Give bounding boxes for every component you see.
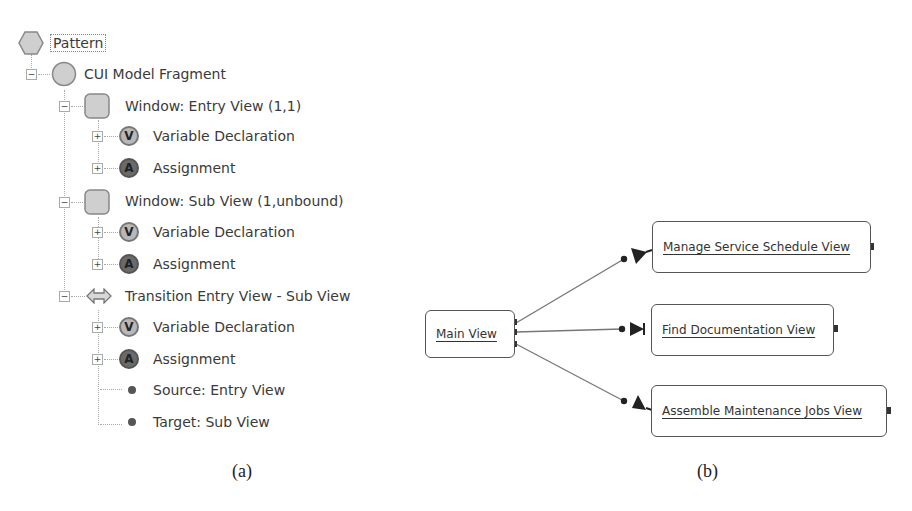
node-label: Assemble Maintenance Jobs View: [662, 404, 862, 418]
node-label: Find Documentation View: [662, 323, 815, 337]
caption-b: (b): [697, 461, 718, 482]
node-label: Main View: [436, 327, 497, 341]
node-find-documentation-view[interactable]: Find Documentation View: [651, 304, 834, 356]
node-manage-service-schedule-view[interactable]: Manage Service Schedule View: [652, 221, 871, 273]
node-main-view[interactable]: Main View: [425, 310, 515, 358]
node-assemble-maintenance-jobs-view[interactable]: Assemble Maintenance Jobs View: [651, 385, 887, 437]
node-label: Manage Service Schedule View: [663, 240, 850, 254]
